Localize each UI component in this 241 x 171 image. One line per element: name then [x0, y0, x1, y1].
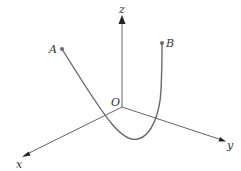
y-arrowhead-icon: [219, 137, 227, 142]
y-axis-label: y: [226, 139, 234, 152]
y-axis: y: [122, 107, 234, 152]
space-curve: [62, 43, 162, 139]
z-axis-label: z: [118, 3, 125, 16]
coordinate-diagram: z x y O A B: [0, 0, 241, 171]
x-arrowhead-icon: [22, 152, 31, 158]
point-a-dot: [60, 47, 64, 51]
x-axis-label: x: [16, 158, 23, 171]
z-arrowhead-icon: [119, 15, 126, 24]
point-a-label: A: [48, 43, 57, 56]
z-axis: z: [118, 3, 126, 107]
point-a: A: [48, 43, 64, 56]
point-b-dot: [160, 41, 164, 45]
origin-label: O: [111, 96, 120, 109]
point-b-label: B: [165, 37, 174, 50]
